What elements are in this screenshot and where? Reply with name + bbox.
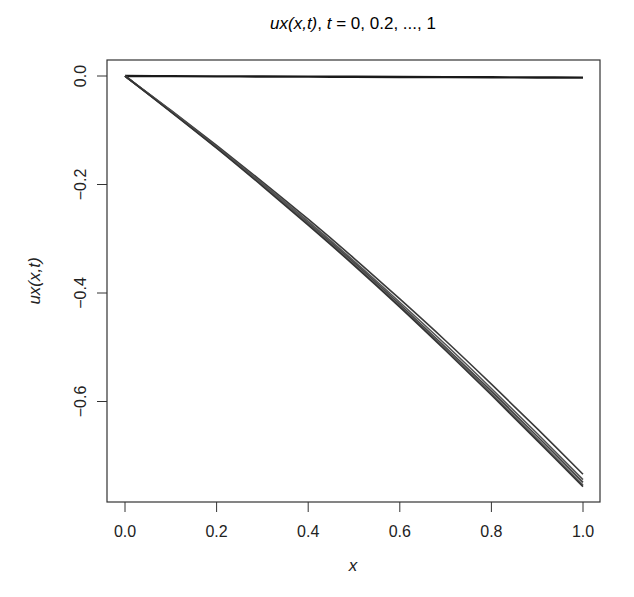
x-tick-label: 0.4 <box>297 523 319 540</box>
y-tick-label: −0.6 <box>72 386 89 418</box>
series-line-2 <box>125 76 583 480</box>
x-tick-label: 0.0 <box>114 523 136 540</box>
plot-frame <box>107 60 600 502</box>
y-tick-label: −0.2 <box>72 169 89 201</box>
x-axis-label: x <box>348 556 358 575</box>
title-values: = 0, 0.2, ..., 1 <box>331 14 435 33</box>
y-axis: 0.0−0.2−0.4−0.6 <box>72 65 107 418</box>
series-line-3 <box>125 76 583 482</box>
x-tick-label: 0.2 <box>205 523 227 540</box>
y-axis-label: ux(x,t) <box>25 257 44 304</box>
chart-title: ux(x,t), t = 0, 0.2, ..., 1 <box>270 14 436 33</box>
x-tick-label: 0.8 <box>480 523 502 540</box>
series-line-0 <box>125 76 583 78</box>
title-separator: , <box>317 14 326 33</box>
y-tick-label: −0.4 <box>72 277 89 309</box>
title-function: ux(x,t) <box>270 14 317 33</box>
x-tick-label: 1.0 <box>572 523 594 540</box>
chart-figure: ux(x,t), t = 0, 0.2, ..., 1 0.00.20.40.6… <box>0 0 634 597</box>
series-line-5 <box>125 76 583 487</box>
x-axis: 0.00.20.40.60.81.0 <box>114 502 594 540</box>
x-tick-label: 0.6 <box>389 523 411 540</box>
series-line-4 <box>125 76 583 485</box>
series-layer <box>125 76 583 487</box>
y-tick-label: 0.0 <box>72 65 89 87</box>
